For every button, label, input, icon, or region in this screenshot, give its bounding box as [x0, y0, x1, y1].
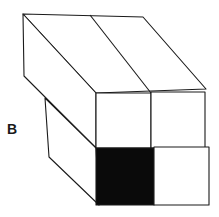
cube-diagram — [0, 0, 219, 217]
front-cell-bottom-left — [96, 148, 154, 205]
front-cell-bottom-right — [154, 147, 209, 205]
front-cell-top-right — [151, 92, 205, 148]
front-cell-top-left — [96, 93, 151, 148]
